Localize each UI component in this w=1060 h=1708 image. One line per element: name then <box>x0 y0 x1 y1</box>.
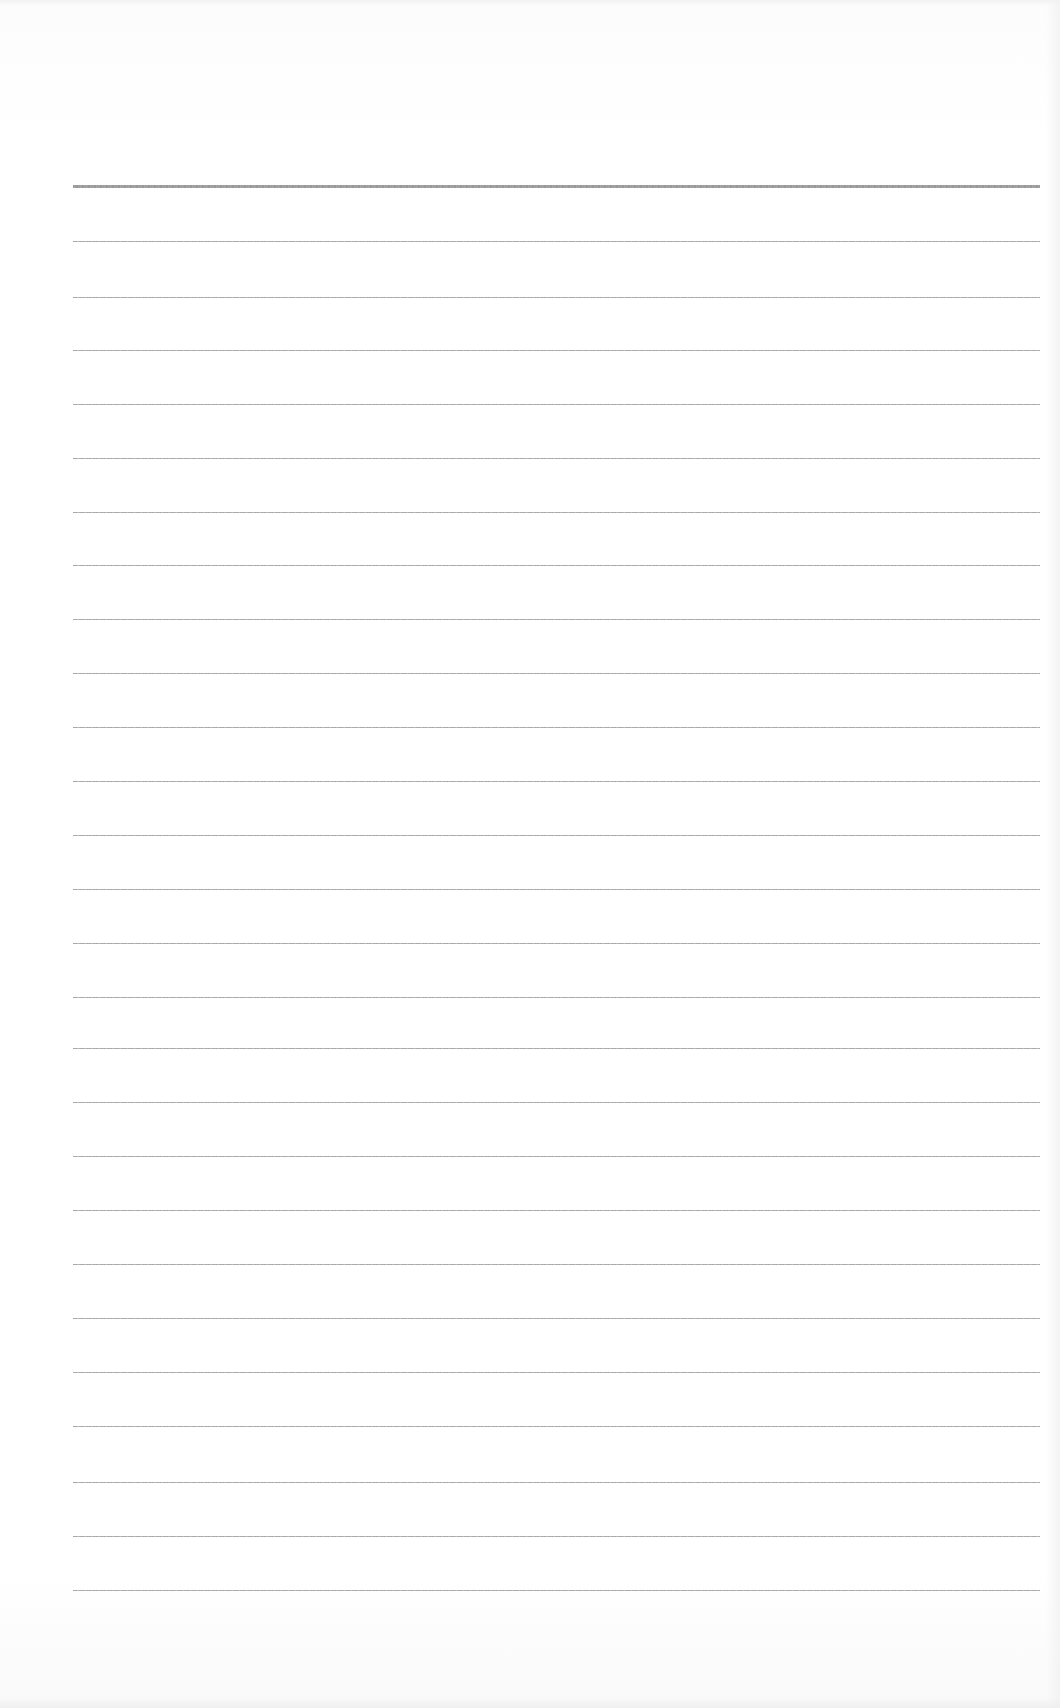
ruled-line <box>73 1318 1040 1319</box>
ruled-line <box>73 297 1040 298</box>
ruled-line <box>73 1264 1040 1265</box>
ruled-line <box>73 673 1040 674</box>
ruled-line <box>73 781 1040 782</box>
ruled-line <box>73 1156 1040 1157</box>
ruled-line <box>73 458 1040 459</box>
ruled-line <box>73 835 1040 836</box>
ruled-line <box>73 727 1040 728</box>
ruled-line <box>73 1372 1040 1373</box>
ruled-line <box>73 889 1040 890</box>
ruled-line <box>73 1426 1040 1427</box>
ruled-line <box>73 404 1040 405</box>
ruled-line <box>73 1210 1040 1211</box>
ruled-line <box>73 619 1040 620</box>
ruled-line <box>73 565 1040 566</box>
ruled-line <box>73 350 1040 351</box>
ruled-line <box>73 512 1040 513</box>
ruled-line <box>73 997 1040 998</box>
page-right-edge-shadow <box>1046 0 1060 1708</box>
ruled-paper-page <box>0 0 1060 1708</box>
ruled-line <box>73 1102 1040 1103</box>
header-rule-line <box>73 185 1040 188</box>
ruled-line <box>73 1590 1040 1591</box>
ruled-line <box>73 1048 1040 1049</box>
ruled-line <box>73 1536 1040 1537</box>
page-top-edge-shadow <box>0 0 1060 6</box>
page-bottom-edge-shadow <box>0 1698 1060 1708</box>
ruled-line <box>73 241 1040 242</box>
ruled-line <box>73 1482 1040 1483</box>
ruled-line <box>73 943 1040 944</box>
